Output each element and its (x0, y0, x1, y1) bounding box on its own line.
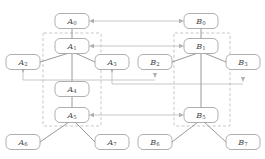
node-a5[interactable]: A5 (55, 108, 89, 123)
arrow-head-left-a5 (89, 113, 94, 117)
arrow-head-left-a1 (89, 44, 94, 48)
edge-b5-b6 (172, 122, 198, 142)
tree-a-nodes: A0 A1 A2 A3 (6, 14, 129, 150)
edge-b1-b3 (204, 53, 226, 62)
node-a1[interactable]: A1 (55, 39, 89, 54)
node-a0[interactable]: A0 (55, 14, 89, 29)
diagram-svg: A0 A1 A2 A3 (0, 0, 265, 159)
node-b0[interactable]: B0 (184, 14, 218, 29)
node-b2[interactable]: B2 (138, 55, 172, 70)
map-arrow-a0-b0 (89, 19, 184, 23)
node-b5[interactable]: B5 (184, 108, 218, 123)
edge-a1-a3 (75, 53, 95, 62)
map-arrow-a5-b5 (89, 113, 184, 117)
node-a3[interactable]: A3 (95, 55, 129, 70)
arrow-head-right-b1 (179, 44, 184, 48)
edge-b1-b2 (172, 53, 198, 62)
node-b1[interactable]: B1 (184, 39, 218, 54)
node-a7[interactable]: A7 (95, 135, 129, 150)
tree-b-nodes: B0 B1 B2 B3 (138, 14, 260, 150)
drop-arrow-routes (21, 68, 245, 84)
map-arrow-a1-b1 (89, 44, 184, 48)
edge-a5-a7 (75, 122, 95, 142)
node-b6[interactable]: B6 (138, 135, 172, 150)
node-b3[interactable]: B3 (226, 55, 260, 70)
edge-b5-b7 (204, 122, 226, 142)
node-b7[interactable]: B7 (226, 135, 260, 150)
node-a2[interactable]: A2 (6, 55, 40, 70)
node-a6[interactable]: A6 (6, 135, 40, 150)
arrow-head-down-b2 (153, 73, 157, 78)
diagram-canvas: A0 A1 A2 A3 (0, 0, 265, 159)
edge-a1-a2 (40, 53, 69, 62)
arrow-head-left-a0 (89, 19, 94, 23)
arrow-head-right-b5 (179, 113, 184, 117)
arrow-head-down-b3 (241, 77, 245, 82)
edge-a5-a6 (40, 122, 69, 142)
arrow-head-right-b0 (179, 19, 184, 23)
node-a4[interactable]: A4 (55, 82, 89, 97)
route-a3-down (112, 70, 243, 84)
